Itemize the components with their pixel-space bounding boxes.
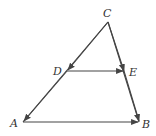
label-e: E (128, 66, 137, 79)
vector-da (24, 71, 67, 121)
label-c: C (103, 7, 112, 20)
vector-ce (108, 22, 124, 71)
triangle-diagram: C D E A B (0, 0, 156, 136)
label-b: B (141, 118, 150, 131)
label-a: A (9, 117, 18, 130)
label-d: D (52, 65, 62, 78)
vector-cd (68, 22, 108, 70)
